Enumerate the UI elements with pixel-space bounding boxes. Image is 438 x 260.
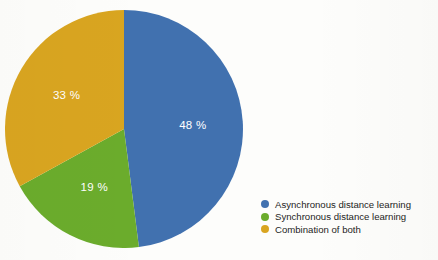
legend-item-synchronous-distance-learning[interactable]: Synchronous distance learning	[261, 211, 437, 223]
legend-item-label: Synchronous distance learning	[275, 211, 406, 222]
pie-chart-plot-area: 48 % 19 % 33 %	[5, 10, 243, 248]
pie-slice-label-1: 48 %	[179, 119, 206, 131]
legend-item-label: Combination of both	[275, 224, 361, 235]
legend-color-swatch-icon	[261, 225, 269, 233]
legend-color-swatch-icon	[261, 213, 269, 221]
pie-slice-label-2: 19 %	[81, 181, 108, 193]
pie-slice-label-3: 33 %	[53, 89, 80, 101]
chart-legend: Asynchronous distance learning Synchrono…	[261, 198, 437, 236]
pie-svg: 48 % 19 % 33 %	[5, 10, 243, 248]
pie-slices	[5, 10, 243, 248]
pie-chart-figure: 48 % 19 % 33 % Asynchronous distance lea…	[0, 0, 438, 260]
legend-item-label: Asynchronous distance learning	[275, 199, 411, 210]
legend-item-combination-of-both[interactable]: Combination of both	[261, 223, 437, 235]
legend-color-swatch-icon	[261, 200, 269, 208]
legend-item-asynchronous-distance-learning[interactable]: Asynchronous distance learning	[261, 198, 437, 210]
